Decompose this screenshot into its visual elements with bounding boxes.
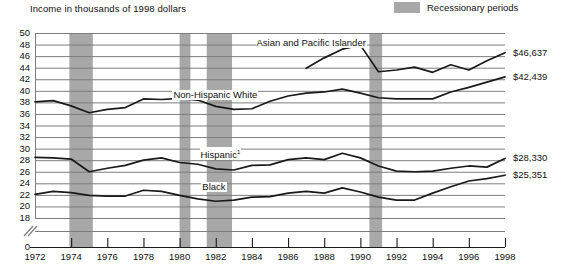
series-label-asian-and-pacific-islander: Asian and Pacific Islander — [256, 38, 367, 48]
series-label-black: Black — [201, 182, 226, 192]
series-label-hispanic: Hispanic1 — [200, 147, 242, 160]
chart-overlays: Asian and Pacific Islander$46,637Non-His… — [0, 0, 566, 274]
series-end-value-hispanic: $28,330 — [513, 153, 547, 163]
income-line-chart: Income in thousands of 1998 dollars Rece… — [0, 0, 566, 274]
series-label-non-hispanic-white: Non-Hispanic White — [172, 90, 258, 100]
series-label-footnote-hispanic: 1 — [237, 149, 240, 155]
series-end-value-black: $25,351 — [513, 170, 547, 180]
series-end-value-asian-and-pacific-islander: $46,637 — [513, 48, 547, 58]
series-end-value-non-hispanic-white: $42,439 — [513, 72, 547, 82]
